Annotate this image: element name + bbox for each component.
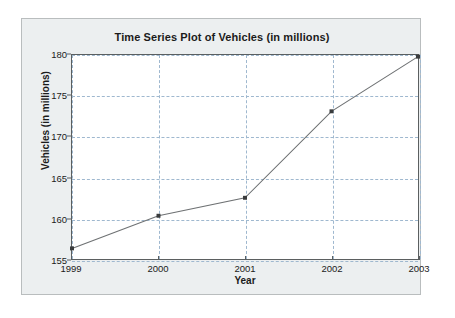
data-series-layer	[72, 55, 418, 259]
data-point-marker	[70, 246, 74, 250]
data-point-marker	[243, 196, 247, 200]
data-point-marker	[330, 109, 334, 113]
x-axis-tick-mark	[71, 256, 72, 260]
x-axis-tick-label: 2002	[321, 263, 342, 274]
x-axis-title: Year	[71, 275, 419, 286]
figure-canvas: Time Series Plot of Vehicles (in million…	[0, 0, 455, 318]
y-axis-tick-label: 165	[27, 172, 67, 183]
y-axis-tick-labels: 155160165170175180	[25, 54, 67, 260]
chart-title: Time Series Plot of Vehicles (in million…	[22, 31, 422, 43]
y-axis-tick-label: 180	[27, 49, 67, 60]
data-point-marker	[416, 55, 420, 59]
x-axis-tick-mark	[419, 256, 420, 260]
series-line-vehicles	[72, 57, 418, 249]
gridline-vertical	[420, 55, 421, 259]
x-axis-tick-label: 1999	[60, 263, 81, 274]
x-axis-tick-mark	[158, 256, 159, 260]
series-markers-vehicles	[70, 55, 420, 251]
y-axis-tick-label: 160	[27, 213, 67, 224]
x-axis-tick-mark	[245, 256, 246, 260]
y-axis-tick-label: 175	[27, 90, 67, 101]
x-axis-tick-mark	[332, 256, 333, 260]
x-axis-tick-label: 2001	[234, 263, 255, 274]
x-axis-tick-label: 2000	[147, 263, 168, 274]
data-point-marker	[157, 214, 161, 218]
chart-panel: Time Series Plot of Vehicles (in million…	[21, 18, 421, 295]
x-axis-tick-label: 2003	[408, 263, 429, 274]
y-axis-tick-label: 170	[27, 131, 67, 142]
plot-area	[71, 54, 419, 260]
